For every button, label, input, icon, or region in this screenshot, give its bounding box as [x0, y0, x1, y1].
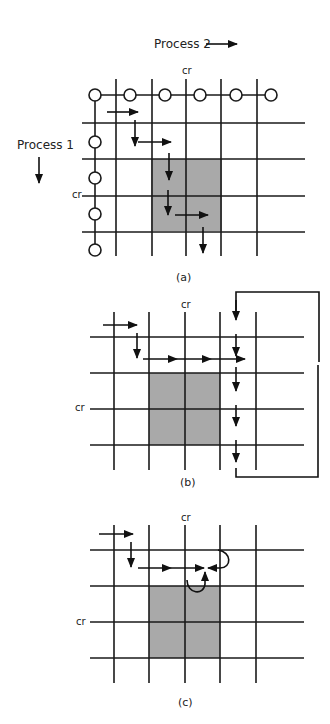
cr-label-left: cr [72, 189, 82, 200]
panel-c: cr cr (c) [76, 512, 304, 709]
grid-verticals [114, 312, 256, 470]
node-icon [265, 89, 277, 101]
cr-label-left: cr [75, 402, 85, 413]
panel-b: cr cr [75, 292, 319, 489]
node-icon [159, 89, 171, 101]
cr-label-top: cr [181, 512, 191, 523]
node-icon [89, 208, 101, 220]
loop-bottom-line [236, 365, 318, 477]
cr-label-top: cr [181, 299, 191, 310]
process-progress-diagram: Process 2 Process 1 cr cr [0, 0, 330, 724]
node-icon [124, 89, 136, 101]
node-icon [194, 89, 206, 101]
node-icon [89, 244, 101, 256]
cr-label-left: cr [76, 616, 86, 627]
caption-a: (a) [176, 271, 191, 284]
cr-label-top: cr [182, 65, 192, 76]
process-1-label: Process 1 [17, 138, 74, 152]
node-icon [89, 136, 101, 148]
node-icon [89, 89, 101, 101]
caption-c: (c) [178, 696, 193, 709]
process-2-label: Process 2 [154, 37, 211, 51]
grid-verticals [114, 525, 256, 683]
curved-arrow-left-icon [208, 550, 229, 568]
caption-b: (b) [180, 476, 196, 489]
path-arrows-c [99, 534, 229, 592]
panel-a: Process 2 Process 1 cr cr [17, 37, 305, 284]
grid-verticals [116, 79, 257, 256]
node-icon [89, 172, 101, 184]
node-icon [230, 89, 242, 101]
loop-top-line [236, 292, 319, 362]
